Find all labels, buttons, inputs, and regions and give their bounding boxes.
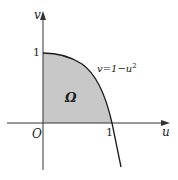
curve-label-exponent: 2 [132, 62, 136, 70]
y-tick-label: 1 [33, 47, 40, 58]
diagram-figure: v 1 v=1−u2 Ω O 1 u [0, 0, 178, 180]
y-axis-label: v [34, 9, 41, 21]
diagram-canvas [0, 0, 178, 180]
x-axis-label: u [162, 126, 170, 138]
x-tick-label: 1 [106, 127, 113, 138]
curve-label-main: v=1−u [97, 63, 132, 74]
curve-label: v=1−u2 [97, 63, 137, 74]
region-label: Ω [65, 91, 77, 104]
origin-label: O [32, 128, 42, 140]
